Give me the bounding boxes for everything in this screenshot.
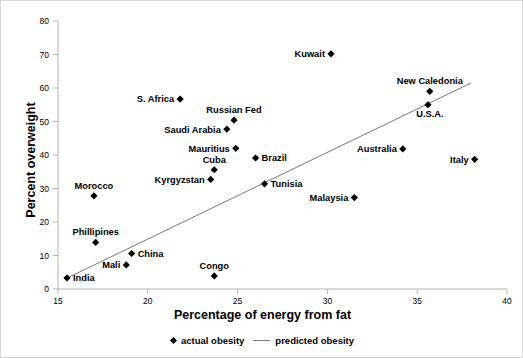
x-tick-label: 40 <box>502 296 512 306</box>
data-point-label: Mauritius <box>188 144 229 154</box>
scatter-plot-canvas: 01020304050607080 152025303540 IndiaMoro… <box>1 1 523 358</box>
data-point-label: Brazil <box>262 153 287 163</box>
data-point-marker <box>351 194 358 201</box>
x-tick-label: 15 <box>53 296 63 306</box>
predicted-obesity-trendline <box>65 83 471 279</box>
data-point-label: Mali <box>102 260 120 270</box>
data-point-label: S. Africa <box>137 94 175 104</box>
data-point-marker <box>211 272 218 279</box>
data-point-label: Morocco <box>75 181 114 191</box>
data-point-label: Cuba <box>203 155 227 165</box>
data-point-marker <box>230 117 237 124</box>
legend-label-predicted-obesity: predicted obesity <box>275 335 354 346</box>
x-axis-title: Percentage of energy from fat <box>1 308 523 322</box>
data-point-label: Australia <box>357 144 398 154</box>
data-point-label: Phillipines <box>72 227 119 237</box>
y-tick-label: 40 <box>40 150 50 160</box>
y-axis-title: Percent overweight <box>24 60 38 260</box>
y-tick-label: 80 <box>40 16 50 26</box>
diamond-marker-icon <box>170 337 177 344</box>
y-tick-label: 20 <box>40 217 50 227</box>
y-tick-label: 60 <box>40 83 50 93</box>
y-tick-label: 50 <box>40 117 50 127</box>
data-point-marker <box>128 250 135 257</box>
chart-legend: actual obesity predicted obesity <box>1 335 523 346</box>
data-point-label: Italy <box>450 155 469 165</box>
y-axis-ticks: 01020304050607080 <box>40 16 58 294</box>
data-point-marker <box>207 176 214 183</box>
legend-item-actual-obesity: actual obesity <box>171 335 244 346</box>
line-marker-icon <box>253 340 270 341</box>
data-point-label: Kuwait <box>295 49 325 59</box>
y-tick-label: 30 <box>40 184 50 194</box>
data-point-label: China <box>138 249 165 259</box>
data-point-marker <box>177 95 184 102</box>
data-point-marker <box>327 50 334 57</box>
x-tick-label: 20 <box>143 296 153 306</box>
y-tick-label: 10 <box>40 251 50 261</box>
data-point-label: New Caledonia <box>397 76 464 86</box>
data-point-labels-group: IndiaMoroccoPhillipinesMaliChinaS. Afric… <box>72 49 469 283</box>
data-point-marker <box>471 156 478 163</box>
x-tick-label: 25 <box>233 296 243 306</box>
data-point-marker <box>252 154 259 161</box>
y-tick-label: 0 <box>44 284 49 294</box>
data-point-label: Kyrgyzstan <box>155 175 205 185</box>
data-point-label: India <box>73 273 96 283</box>
data-point-marker <box>63 274 70 281</box>
legend-item-predicted-obesity: predicted obesity <box>253 335 354 346</box>
legend-label-actual-obesity: actual obesity <box>181 335 244 346</box>
data-point-marker <box>123 261 130 268</box>
data-point-label: Saudi Arabia <box>164 125 221 135</box>
data-point-label: Tunisia <box>271 179 304 189</box>
data-point-marker <box>232 145 239 152</box>
data-point-marker <box>223 126 230 133</box>
data-point-marker <box>399 145 406 152</box>
data-point-marker <box>92 239 99 246</box>
data-point-marker <box>426 88 433 95</box>
x-tick-label: 30 <box>323 296 333 306</box>
data-point-label: U.S.A. <box>416 109 443 119</box>
chart-figure: 01020304050607080 152025303540 IndiaMoro… <box>0 0 523 358</box>
data-point-label: Congo <box>200 261 230 271</box>
data-point-marker <box>90 192 97 199</box>
y-tick-label: 70 <box>40 50 50 60</box>
x-tick-label: 35 <box>412 296 422 306</box>
x-axis-ticks: 152025303540 <box>53 289 512 306</box>
data-point-marker <box>211 166 218 173</box>
data-point-label: Malaysia <box>310 193 350 203</box>
data-point-label: Russian Fed <box>206 105 262 115</box>
